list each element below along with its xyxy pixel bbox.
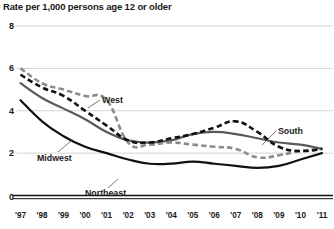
x-tick-label: '01 [101, 211, 112, 220]
x-tick-label: '06 [209, 211, 220, 220]
leader-line [88, 100, 100, 108]
x-tick-label: '08 [252, 211, 263, 220]
x-tick-label: '05 [187, 211, 198, 220]
x-tick-label: '98 [37, 211, 48, 220]
x-tick-label: '10 [295, 211, 306, 220]
line-chart-svg [0, 0, 334, 229]
series-line-west [21, 68, 323, 157]
leader-line [58, 140, 72, 152]
x-tick-label: '03 [144, 211, 155, 220]
x-tick-label: '00 [80, 211, 91, 220]
series-label-midwest: Midwest [37, 153, 72, 163]
y-tick-label: 4 [2, 106, 14, 116]
x-tick-label: '99 [58, 211, 69, 220]
series-label-west: West [102, 95, 123, 105]
x-tick-label: '07 [230, 211, 241, 220]
leader-line [108, 179, 118, 188]
y-tick-label: 6 [2, 63, 14, 73]
series-label-south: South [278, 126, 303, 136]
x-tick-label: '11 [317, 211, 328, 220]
y-tick-label: 8 [2, 21, 14, 31]
y-tick-label: 2 [2, 148, 14, 158]
chart-figure: Rate per 1,000 persons age 12 or older 8… [0, 0, 334, 229]
plot-area [0, 0, 334, 229]
x-tick-label: '09 [273, 211, 284, 220]
x-tick-label: '97 [15, 211, 26, 220]
y-tick-label: 0 [2, 192, 14, 202]
x-tick-label: '02 [123, 211, 134, 220]
x-tick-label: '04 [166, 211, 177, 220]
series-label-northeast: Northeast [85, 188, 126, 198]
